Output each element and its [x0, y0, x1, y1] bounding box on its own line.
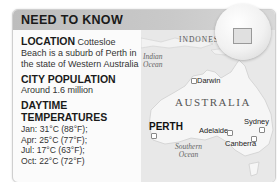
marker-sydney [259, 127, 265, 133]
label-adelaide: Adelaide [199, 126, 228, 135]
temperature-item-apr: Apr: 25°C (77°F); [21, 135, 143, 146]
globe-locator [215, 4, 271, 60]
location-heading: LOCATION [21, 35, 75, 47]
temperature-item-jan: Jan: 31°C (88°F); [21, 124, 143, 135]
population-text: Around 1.6 million [21, 85, 143, 96]
label-southern-ocean: Southern Ocean [175, 143, 202, 159]
marker-perth [151, 133, 157, 139]
facts-panel: LOCATION Cottesloe Beach is a suburb of … [21, 36, 143, 166]
label-perth: PERTH [149, 121, 183, 132]
marker-adelaide [227, 130, 233, 136]
temperatures-list: Jan: 31°C (88°F); Apr: 25°C (77°F); Jul:… [21, 124, 143, 166]
temperatures-heading-line1: DAYTIME [21, 99, 143, 111]
globe-highlight-box [233, 28, 252, 44]
population-heading: CITY POPULATION [21, 73, 143, 85]
temperature-item-oct: Oct: 22°C (72°F) [21, 156, 143, 167]
marker-canberra [251, 136, 257, 142]
label-australia: AUSTRALIA [175, 96, 251, 108]
temperatures-heading-line2: TEMPERATURES [21, 111, 143, 123]
label-sydney: Sydney [244, 117, 269, 126]
card-title: NEED TO KNOW [21, 13, 123, 27]
label-indian-ocean: Indian Ocean [143, 53, 163, 69]
label-darwin: Darwin [197, 76, 220, 85]
temperature-item-jul: Jul: 17°C (63°F); [21, 145, 143, 156]
location-block: LOCATION Cottesloe Beach is a suburb of … [21, 36, 143, 70]
